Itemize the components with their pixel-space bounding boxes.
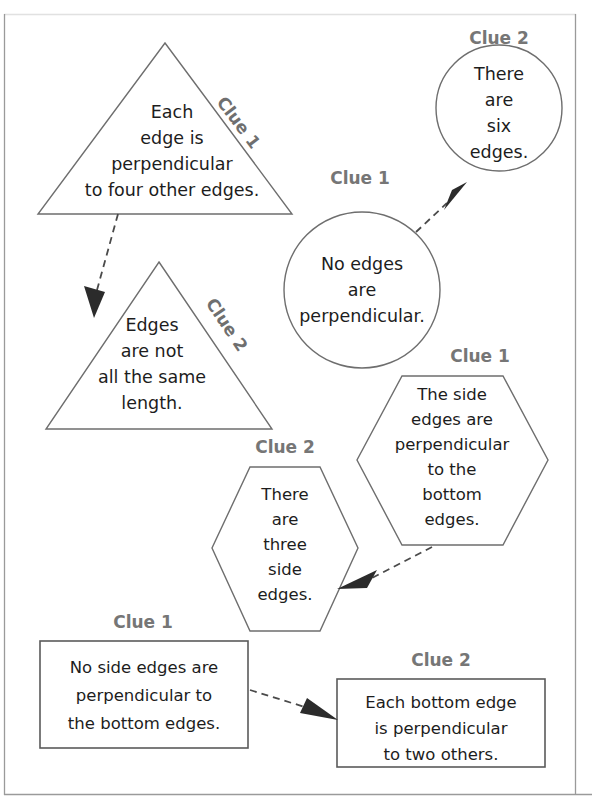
hexagon-2-line-5: edges.: [257, 585, 312, 604]
circle-1-clue-label: Clue 1: [330, 168, 390, 188]
hexagon-1-line-5: bottom: [422, 485, 482, 504]
node-circle-1[interactable]: No edges are perpendicular. Clue 1: [284, 168, 440, 368]
rectangle-2-line-3: to two others.: [384, 745, 499, 764]
circle-1-line-2: are: [348, 280, 376, 300]
rectangle-2-line-1: Each bottom edge: [365, 693, 516, 712]
triangle-1-line-1: Each: [151, 102, 194, 122]
circle-2-line-1: There: [473, 64, 524, 84]
hexagon-1-line-6: edges.: [424, 510, 479, 529]
arrow-circle-1-to-2-line: [416, 203, 447, 232]
arrow-rectangle-1-to-2: [250, 690, 338, 720]
hexagon-2-line-2: are: [272, 510, 299, 529]
circle-2-line-3: six: [487, 116, 511, 136]
arrow-triangle-1-to-2-line: [97, 214, 118, 290]
clue-diagram: Each edge is perpendicular to four other…: [0, 0, 592, 808]
node-triangle-1[interactable]: Each edge is perpendicular to four other…: [38, 43, 292, 214]
arrow-triangle-1-to-2-head: [84, 286, 105, 318]
hexagon-1-line-4: to the: [428, 460, 477, 479]
triangle-1-line-2: edge is: [140, 128, 203, 148]
triangle-2-line-2: are not: [121, 341, 184, 361]
circle-1-line-1: No edges: [321, 254, 403, 274]
node-circle-2[interactable]: There are six edges. Clue 2: [436, 28, 562, 171]
hexagon-1-line-3: perpendicular: [395, 435, 510, 454]
rectangle-2-line-2: is perpendicular: [375, 719, 508, 738]
arrow-circle-1-to-2: [416, 182, 467, 232]
rectangle-1-clue-label: Clue 1: [113, 612, 173, 632]
arrow-circle-1-to-2-head: [444, 182, 467, 210]
triangle-1-line-3: perpendicular: [111, 154, 233, 174]
hexagon-2-line-1: There: [260, 485, 308, 504]
arrow-hexagon-1-to-2-line: [372, 547, 432, 578]
arrow-triangle-1-to-2: [84, 214, 118, 318]
triangle-2-line-4: length.: [121, 393, 182, 413]
hexagon-2-line-3: three: [263, 535, 307, 554]
circle-1-line-3: perpendicular.: [299, 306, 424, 326]
rectangle-1-line-1: No side edges are: [70, 658, 219, 677]
node-hexagon-2[interactable]: There are three side edges. Clue 2: [212, 437, 358, 631]
node-hexagon-1[interactable]: The side edges are perpendicular to the …: [357, 346, 548, 545]
circle-2-clue-label: Clue 2: [469, 28, 529, 48]
rectangle-1-line-3: the bottom edges.: [68, 714, 220, 733]
diagram-page: Each edge is perpendicular to four other…: [0, 0, 592, 808]
triangle-1-line-4: to four other edges.: [85, 180, 259, 200]
hexagon-1-line-1: The side: [416, 385, 487, 404]
rectangle-1-line-2: perpendicular to: [76, 686, 212, 705]
hexagon-1-clue-label: Clue 1: [450, 346, 510, 366]
rectangle-2-clue-label: Clue 2: [411, 650, 471, 670]
node-rectangle-1[interactable]: No side edges are perpendicular to the b…: [40, 612, 248, 748]
triangle-2-line-3: all the same: [98, 367, 206, 387]
hexagon-2-clue-label: Clue 2: [255, 437, 315, 457]
node-triangle-2[interactable]: Edges are not all the same length. Clue …: [46, 262, 272, 429]
circle-2-line-4: edges.: [470, 142, 528, 162]
hexagon-1-line-2: edges are: [411, 410, 493, 429]
arrow-rectangle-1-to-2-line: [250, 690, 308, 708]
hexagon-2-line-4: side: [268, 560, 302, 579]
node-rectangle-2[interactable]: Each bottom edge is perpendicular to two…: [337, 650, 545, 767]
triangle-2-line-1: Edges: [125, 315, 178, 335]
arrow-rectangle-1-to-2-head: [300, 698, 338, 720]
circle-2-line-2: are: [485, 90, 513, 110]
